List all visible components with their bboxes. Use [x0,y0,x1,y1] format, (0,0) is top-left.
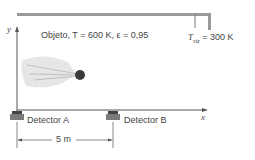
detector-b-label: Detector B [124,115,167,125]
distance-label: 5 m [56,134,71,144]
y-axis-arrow [15,26,19,32]
surroundings-label: Tviz = 300 K [188,32,233,44]
detector-a-icon [12,111,22,114]
detector-a-label: Detector A [27,115,69,125]
object-label: Objeto, T = 600 K, ε = 0,95 [41,30,148,40]
x-axis-label: x [201,112,205,122]
object-ball [75,70,85,80]
wall-top [17,13,211,16]
detector-b-icon [108,111,118,114]
diagram-canvas [0,0,255,160]
wall-right [208,13,211,30]
y-axis-label: y [7,24,11,34]
